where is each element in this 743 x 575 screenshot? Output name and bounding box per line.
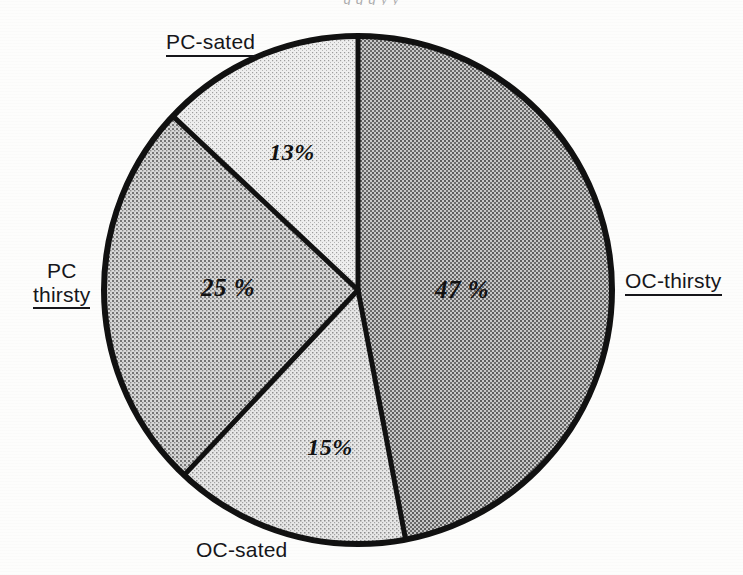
pie-value-label-pc-sated: 13%	[269, 139, 315, 166]
label-line: PC	[33, 259, 90, 283]
label-line: PC-sated	[166, 30, 255, 57]
pie-value-label-oc-sated: 15%	[307, 434, 353, 461]
label-underline-text: thirsty	[33, 283, 90, 310]
label-line: OC-sated	[196, 538, 287, 562]
pie-value-label-pc-thirsty: 25 %	[201, 274, 255, 302]
label-underline-text: PC-sated	[166, 30, 255, 57]
chart-canvas: g g g y y	[0, 0, 743, 575]
label-line: thirsty	[33, 283, 90, 310]
pie-category-label-oc-thirsty[interactable]: OC-thirsty	[625, 269, 722, 296]
pie-category-label-oc-sated[interactable]: OC-sated	[196, 538, 287, 562]
pie-value-label-oc-thirsty: 47 %	[435, 276, 489, 304]
pie-category-label-pc-sated[interactable]: PC-sated	[166, 30, 255, 57]
label-underline-text: OC-thirsty	[625, 269, 722, 296]
label-line: OC-thirsty	[625, 269, 722, 296]
pie-category-label-pc-thirsty[interactable]: PCthirsty	[33, 259, 90, 309]
